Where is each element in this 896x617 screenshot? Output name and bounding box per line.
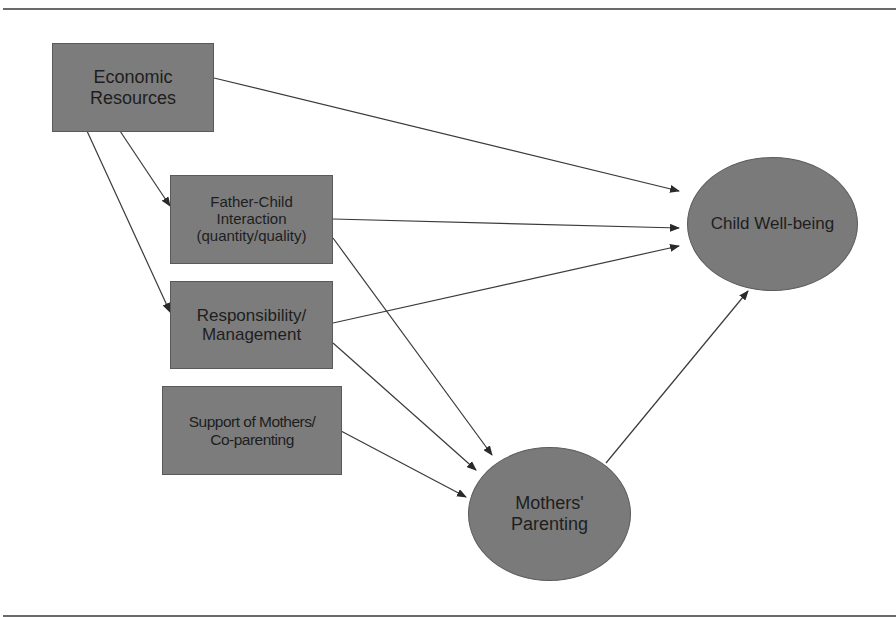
edge-responsibility-to-child: [333, 246, 679, 323]
edge-father-to-mothers: [333, 238, 492, 455]
node-label: Father-Child Interaction (quantity/quali…: [196, 194, 306, 244]
edge-economic-to-father: [120, 131, 170, 206]
node-mothers-parenting: Mothers' Parenting: [468, 447, 631, 581]
node-label: Economic Resources: [90, 67, 176, 107]
node-responsibility-management: Responsibility/ Management: [170, 281, 333, 369]
node-child-well-being: Child Well-being: [687, 157, 858, 291]
edge-support-to-mothers: [341, 431, 466, 497]
node-support-of-mothers: Support of Mothers/ Co-parenting: [162, 386, 342, 475]
edge-mothers-to-child: [606, 291, 748, 463]
node-label: Child Well-being: [711, 214, 834, 234]
node-label: Mothers' Parenting: [511, 493, 588, 534]
node-label: Support of Mothers/ Co-parenting: [189, 413, 316, 448]
node-label: Responsibility/ Management: [197, 306, 307, 344]
edge-economic-to-responsibility: [87, 131, 170, 312]
edge-father-to-child: [333, 219, 679, 228]
node-father-child-interaction: Father-Child Interaction (quantity/quali…: [170, 175, 333, 264]
edge-responsibility-to-mothers: [333, 343, 476, 470]
node-economic-resources: Economic Resources: [52, 43, 214, 132]
